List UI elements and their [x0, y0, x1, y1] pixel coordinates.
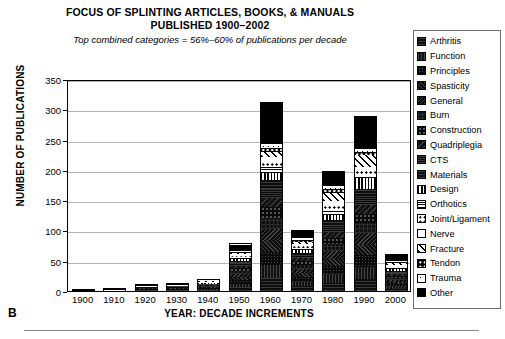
legend-item-nerve[interactable]: Nerve	[417, 226, 498, 241]
legend-item-label: Arthritis	[430, 36, 461, 46]
legend-item-construction[interactable]: Construction	[417, 123, 498, 138]
x-tick-label: 1920	[135, 295, 156, 305]
legend-item-label: Nerve	[430, 229, 455, 239]
legend-item-label: Quadriplegia	[430, 140, 482, 150]
legend-item-arthritis[interactable]: Arthritis	[417, 34, 498, 49]
x-tick-label: 1940	[197, 295, 218, 305]
legend-item-label: Principles	[430, 66, 470, 76]
bar-segment-trauma	[104, 290, 125, 291]
bar-segment-cts	[261, 189, 282, 198]
bar-segment-materials	[355, 189, 376, 196]
bar-1950	[230, 244, 251, 291]
bar-segment-other	[261, 103, 282, 144]
legend-swatch-icon	[417, 288, 426, 297]
bar-segment-spasticity	[261, 240, 282, 252]
x-tick-label: 1980	[322, 295, 343, 305]
bar-segment-arthritis	[355, 279, 376, 291]
legend-item-label: CTS	[430, 155, 448, 165]
bar-segment-arthritis	[198, 290, 219, 291]
bar-segment-burn	[323, 244, 344, 251]
chart-subtitle: Top combined categories = 56%–60% of pub…	[0, 33, 420, 46]
bar-segment-function	[261, 265, 282, 278]
bar-segment-principles	[261, 252, 282, 265]
bar-segment-spasticity	[355, 244, 376, 255]
legend-swatch-icon	[417, 52, 426, 61]
bar-segment-principles	[355, 255, 376, 267]
x-tick-label: 1930	[166, 295, 187, 305]
legend-item-label: Spasticity	[430, 81, 469, 91]
legend-swatch-icon	[417, 155, 426, 164]
bar-1930	[167, 284, 188, 291]
y-axis-ticks: 050100150200250300350	[0, 80, 67, 292]
legend-item-general[interactable]: General	[417, 93, 498, 108]
plot-area	[67, 80, 411, 292]
y-tick-label: 350	[21, 76, 61, 86]
legend-item-function[interactable]: Function	[417, 49, 498, 64]
bar-segment-arthritis	[323, 283, 344, 291]
legend-item-label: Joint/Ligament	[430, 214, 490, 224]
legend-item-label: Tendon	[430, 258, 460, 268]
legend-item-spasticity[interactable]: Spasticity	[417, 78, 498, 93]
bar-segment-burn	[261, 218, 282, 229]
bar-2000	[386, 255, 407, 291]
bar-segment-general	[261, 229, 282, 241]
legend-item-tendon[interactable]: Tendon	[417, 256, 498, 271]
legend-swatch-icon	[417, 244, 426, 253]
y-tick-label: 200	[21, 166, 61, 176]
bar-1960	[261, 103, 282, 291]
bar-segment-burn	[355, 223, 376, 233]
bar-segment-design	[261, 173, 282, 180]
legend-swatch-icon	[417, 81, 426, 90]
legend-item-trauma[interactable]: Trauma	[417, 271, 498, 286]
legend-item-burn[interactable]: Burn	[417, 108, 498, 123]
bar-segment-general	[323, 251, 344, 258]
x-tick-label: 1900	[72, 295, 93, 305]
page-title: FOCUS OF SPLINTING ARTICLES, BOOKS, & MA…	[0, 6, 420, 31]
legend-swatch-icon	[417, 200, 426, 209]
legend-item-fracture[interactable]: Fracture	[417, 241, 498, 256]
legend-item-design[interactable]: Design	[417, 182, 498, 197]
y-tick-label: 300	[21, 106, 61, 116]
bar-segment-construction	[355, 214, 376, 224]
legend-swatch-icon	[417, 126, 426, 135]
legend-swatch-icon	[417, 37, 426, 46]
legend-item-joint-ligament[interactable]: Joint/Ligament	[417, 212, 498, 227]
bar-segment-arthritis	[136, 290, 157, 291]
legend-swatch-icon	[417, 140, 426, 149]
legend-item-label: Other	[430, 288, 453, 298]
legend-item-principles[interactable]: Principles	[417, 64, 498, 79]
legend-swatch-icon	[417, 170, 426, 179]
legend-item-label: Materials	[430, 170, 467, 180]
bar-segment-spasticity	[323, 258, 344, 265]
legend-item-orthotics[interactable]: Orthotics	[417, 197, 498, 212]
y-tick-label: 0	[21, 288, 61, 298]
y-axis-label: NUMBER OF PUBLICATIONS	[15, 41, 26, 231]
bar-1990	[355, 117, 376, 291]
bar-segment-arthritis	[292, 286, 313, 291]
bar-segment-construction	[323, 238, 344, 245]
legend-swatch-icon	[417, 214, 426, 223]
legend-item-other[interactable]: Other	[417, 286, 498, 301]
legend-item-label: Function	[430, 51, 465, 61]
legend-swatch-icon	[417, 66, 426, 75]
bar-1940	[198, 280, 219, 292]
panel-letter: B	[8, 306, 17, 320]
y-tick-label: 50	[21, 257, 61, 267]
legend-item-quadriplegia[interactable]: Quadriplegia	[417, 138, 498, 153]
bar-segment-quadriplegia	[355, 205, 376, 213]
y-tick-label: 250	[21, 136, 61, 146]
legend-item-materials[interactable]: Materials	[417, 167, 498, 182]
bottom-divider	[24, 330, 479, 331]
legend-item-label: Burn	[430, 110, 449, 120]
legend-item-label: Construction	[430, 125, 482, 135]
bar-segment-arthritis	[386, 289, 407, 291]
bar-1920	[136, 285, 157, 291]
bar-segment-general	[355, 233, 376, 244]
bar-1970	[292, 231, 313, 291]
title-block: FOCUS OF SPLINTING ARTICLES, BOOKS, & MA…	[0, 6, 420, 46]
legend-item-label: General	[430, 96, 463, 106]
legend-item-cts[interactable]: CTS	[417, 152, 498, 167]
bar-segment-other	[355, 117, 376, 150]
bar-segment-construction	[261, 207, 282, 218]
bar-series-container	[68, 81, 410, 291]
